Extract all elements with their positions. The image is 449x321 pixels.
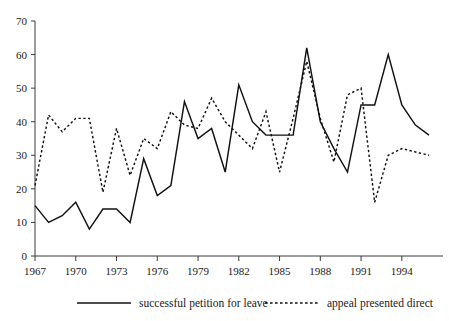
x-axis-ticks: 1967197019731976197919821985198819911994 <box>24 256 413 277</box>
x-tick-label: 1985 <box>269 265 292 277</box>
y-tick-label: 20 <box>16 183 28 195</box>
y-tick-label: 40 <box>16 116 28 128</box>
y-tick-label: 50 <box>16 82 28 94</box>
legend-label-0: successful petition for leave <box>139 297 268 310</box>
x-tick-label: 1973 <box>106 265 129 277</box>
chart-container: 010203040506070 196719701973197619791982… <box>0 0 449 321</box>
y-axis-ticks: 010203040506070 <box>16 15 35 262</box>
y-tick-label: 60 <box>16 49 28 61</box>
x-tick-label: 1988 <box>309 265 332 277</box>
x-tick-label: 1994 <box>391 265 414 277</box>
x-axis: 1967197019731976197919821985198819911994 <box>24 256 443 277</box>
x-tick-label: 1979 <box>187 265 210 277</box>
line-chart: 010203040506070 196719701973197619791982… <box>0 0 449 321</box>
y-axis: 010203040506070 <box>16 15 35 262</box>
x-tick-label: 1982 <box>228 265 250 277</box>
series-line-successful-petition-for-leave <box>35 48 429 229</box>
x-tick-label: 1970 <box>65 265 88 277</box>
x-tick-label: 1976 <box>146 265 169 277</box>
plot-series-group <box>35 48 429 229</box>
y-tick-label: 30 <box>16 149 28 161</box>
y-tick-label: 10 <box>16 216 28 228</box>
x-tick-label: 1991 <box>350 265 372 277</box>
y-tick-label: 0 <box>22 250 28 262</box>
legend: successful petition for leave appeal pre… <box>77 297 434 310</box>
legend-label-1: appeal presented direct <box>327 297 434 310</box>
y-tick-label: 70 <box>16 15 28 27</box>
x-tick-label: 1967 <box>24 265 47 277</box>
